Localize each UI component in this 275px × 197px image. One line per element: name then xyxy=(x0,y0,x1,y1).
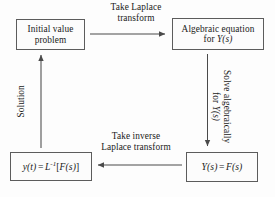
node-transform-equation: Y(s)=F(s) xyxy=(186,152,258,182)
edge-label-solve-algebraically-line1: Solve algebraically xyxy=(221,70,232,144)
node-algebraic-equation-line2: for Y(s) xyxy=(204,34,233,44)
node-algebraic-equation-line1: Algebraic equation xyxy=(182,24,255,34)
transform-F-argument: (s) xyxy=(232,161,242,172)
edge-label-solve-algebraically-argument: (s) xyxy=(211,111,221,121)
node-initial-value-problem-line2: problem xyxy=(35,35,67,45)
edge-label-solution-text: Solution xyxy=(16,85,26,117)
edge-label-take-inverse-laplace-transform-line2: Laplace transform xyxy=(86,142,186,153)
node-inverse-transform-equation: y(t)=L-1[F(s)] xyxy=(23,160,80,173)
node-transform-equation-text: Y(s)=F(s) xyxy=(202,162,243,173)
edge-label-take-laplace-transform-line1: Take Laplace xyxy=(88,2,184,13)
node-algebraic-equation-for: for xyxy=(204,34,218,44)
node-initial-value-problem-line1: Initial value xyxy=(28,24,74,34)
inverse-bracket-close: ] xyxy=(76,161,79,172)
edge-label-take-laplace-transform: Take Laplace transform xyxy=(88,2,184,23)
inverse-F-argument: (s) xyxy=(66,161,76,172)
transform-equals-sign: = xyxy=(217,161,226,172)
inverse-equals-sign: = xyxy=(36,161,45,172)
node-initial-value-problem: Initial value problem xyxy=(16,19,85,50)
edge-label-take-laplace-transform-line2: transform xyxy=(88,13,184,24)
edge-label-take-inverse-laplace-transform-line1: Take inverse xyxy=(86,131,186,142)
edge-label-solve-algebraically: Solve algebraically for Y(s) xyxy=(210,70,231,144)
inverse-y-argument: (t) xyxy=(27,161,36,172)
laplace-transform-flowchart: Initial value problem Algebraic equation… xyxy=(0,0,275,197)
edge-label-take-inverse-laplace-transform: Take inverse Laplace transform xyxy=(86,131,186,152)
node-algebraic-equation-argument: (s) xyxy=(222,34,232,44)
edge-label-solve-algebraically-for: for xyxy=(211,92,221,106)
node-inverse-transform-result: y(t)=L-1[F(s)] xyxy=(10,152,92,181)
transform-Y-argument: (s) xyxy=(207,161,217,172)
node-algebraic-equation: Algebraic equation for Y(s) xyxy=(172,18,264,50)
edge-label-solve-algebraically-line2: for Y(s) xyxy=(210,70,221,144)
edge-label-solution: Solution xyxy=(16,66,27,136)
